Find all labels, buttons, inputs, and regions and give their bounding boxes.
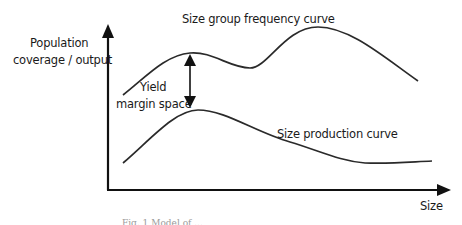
y-axis-label-line2: coverage / output <box>13 55 112 67</box>
diagram-svg <box>0 0 462 225</box>
top-curve-label: Size group frequency curve <box>182 14 335 26</box>
x-axis-label: Size <box>420 201 443 213</box>
gap-label-line2: margin space <box>116 99 192 111</box>
figure-caption: Fig. 1 Model of ... <box>122 219 203 225</box>
y-axis-label-line1: Population <box>30 38 88 50</box>
x-axis-arrowhead-icon <box>437 184 451 196</box>
bottom-curve-label: Size production curve <box>277 129 398 141</box>
y-axis-arrowhead-icon <box>102 24 114 38</box>
yield-margin-arrow-up-icon <box>184 54 196 66</box>
gap-label-line1: Yield <box>140 82 166 94</box>
size-group-frequency-curve <box>123 27 418 95</box>
